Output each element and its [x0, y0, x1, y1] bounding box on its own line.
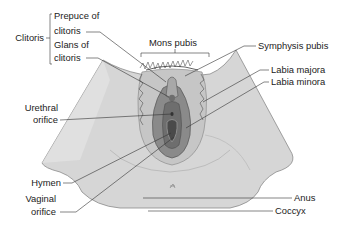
label-urethral-orifice-line2: orifice [4, 115, 58, 125]
label-vaginal-orifice-line2: orifice [4, 207, 56, 217]
label-prepuce-of-clitoris-line1: Prepuce of [54, 11, 99, 21]
label-urethral-orifice-line1: Urethral [4, 103, 58, 113]
label-labia-majora: Labia majora [271, 65, 325, 75]
label-prepuce-of-clitoris-line2: clitoris [54, 26, 81, 36]
label-clitoris: Clitoris [4, 33, 44, 43]
label-glans-of-clitoris-line1: Glans of [54, 40, 89, 50]
label-hymen: Hymen [4, 178, 61, 188]
glans-clitoris-shape [169, 95, 175, 101]
label-anus: Anus [294, 193, 315, 203]
vulva-anatomy-diagram: Clitoris Prepuce of clitoris Glans of cl… [0, 0, 349, 233]
label-labia-minora: Labia minora [271, 77, 325, 87]
label-coccyx: Coccyx [275, 206, 306, 216]
label-glans-of-clitoris-line2: clitoris [54, 53, 81, 63]
label-vaginal-orifice-line1: Vaginal [4, 194, 56, 204]
label-mons-pubis: Mons pubis [149, 38, 197, 48]
label-symphysis-pubis: Symphysis pubis [258, 41, 328, 51]
